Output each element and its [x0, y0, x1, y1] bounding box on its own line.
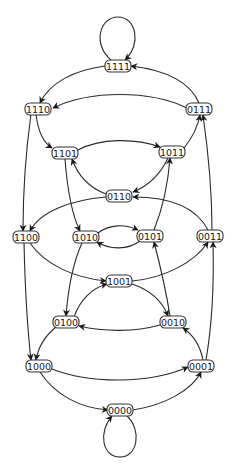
edge-0001-0011 — [206, 242, 213, 360]
node-label: 0100 — [54, 317, 78, 328]
node-label: 1011 — [160, 147, 184, 158]
edge-0001-0010 — [183, 328, 203, 360]
edge-0000-0000 — [104, 416, 137, 457]
edge-0100-1000 — [36, 327, 56, 360]
edge-0100-1001 — [74, 284, 107, 317]
node-label: 0001 — [189, 361, 213, 372]
node-1111: 1111 — [105, 60, 131, 72]
edge-1001-0011 — [132, 242, 208, 281]
node-0110: 0110 — [106, 190, 132, 202]
node-1000: 1000 — [26, 360, 52, 372]
edge-0011-0111 — [203, 115, 212, 230]
node-label: 0000 — [108, 405, 132, 416]
node-label: 0111 — [187, 104, 211, 115]
node-1010: 1010 — [73, 231, 99, 243]
node-1001: 1001 — [106, 275, 132, 287]
edge-0011-0110 — [133, 197, 208, 230]
edge-1100-1000 — [24, 243, 31, 360]
node-label: 1000 — [27, 361, 51, 372]
node-label: 1010 — [74, 232, 98, 243]
edge-1100-1001 — [30, 243, 106, 281]
edge-1011-0111 — [184, 115, 200, 148]
edge-0111-1110 — [53, 95, 187, 109]
edge-1010-0101 — [98, 226, 138, 233]
edge-1001-0010 — [132, 284, 168, 316]
edge-1101-1011 — [78, 141, 160, 150]
node-label: 1100 — [14, 232, 38, 243]
edge-0110-1101 — [72, 159, 106, 194]
node-0001: 0001 — [188, 360, 214, 372]
nodes: 1111 1110 0111 1101 1011 0110 1100 1010 — [13, 60, 223, 416]
node-label: 0110 — [107, 191, 131, 202]
edge-1000-0000 — [40, 372, 108, 410]
edge-1110-1101 — [36, 114, 52, 148]
node-1100: 1100 — [13, 231, 39, 243]
node-0111: 0111 — [186, 103, 212, 115]
node-1011: 1011 — [159, 146, 185, 158]
node-0011: 0011 — [197, 230, 223, 242]
edge-0111-1111 — [131, 66, 199, 103]
node-label: 0011 — [198, 231, 222, 242]
node-0000: 0000 — [107, 404, 133, 416]
node-0100: 0100 — [53, 316, 79, 328]
node-label: 1001 — [107, 276, 131, 287]
edge-1111-1111 — [100, 17, 135, 60]
edges — [23, 17, 213, 457]
edge-1111-1110 — [40, 66, 105, 103]
node-label: 1110 — [26, 104, 50, 115]
node-label: 0010 — [161, 317, 185, 328]
edge-1110-1100 — [23, 114, 31, 231]
edge-1101-1010 — [65, 159, 80, 231]
state-diagram: 1111 1110 0111 1101 1011 0110 1100 1010 — [0, 0, 233, 469]
node-0010: 0010 — [160, 316, 186, 328]
edge-1011-0110 — [133, 158, 168, 192]
node-0101: 0101 — [137, 230, 163, 242]
edge-0000-0001 — [133, 372, 201, 410]
node-label: 1111 — [106, 61, 130, 72]
node-1110: 1110 — [25, 103, 51, 115]
node-label: 0101 — [138, 231, 162, 242]
edge-0101-1010 — [97, 241, 140, 248]
edge-0110-1100 — [30, 197, 106, 231]
edge-1000-0001 — [52, 367, 188, 380]
node-label: 1101 — [53, 148, 77, 159]
edge-0010-0100 — [79, 325, 160, 330]
node-1101: 1101 — [52, 147, 78, 159]
